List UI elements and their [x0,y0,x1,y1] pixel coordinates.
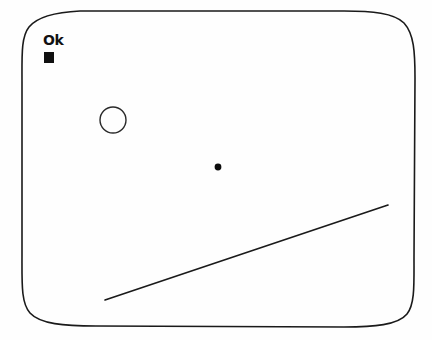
dot-point-shape[interactable] [215,164,222,171]
caret-block-icon [44,52,54,63]
ok-text-label: Ok [43,33,64,47]
circle-outline-shape[interactable] [100,107,126,133]
sketch-canvas[interactable]: Ok [0,0,432,340]
diagonal-line-shape[interactable] [105,205,388,300]
label-group: Ok [43,33,83,67]
